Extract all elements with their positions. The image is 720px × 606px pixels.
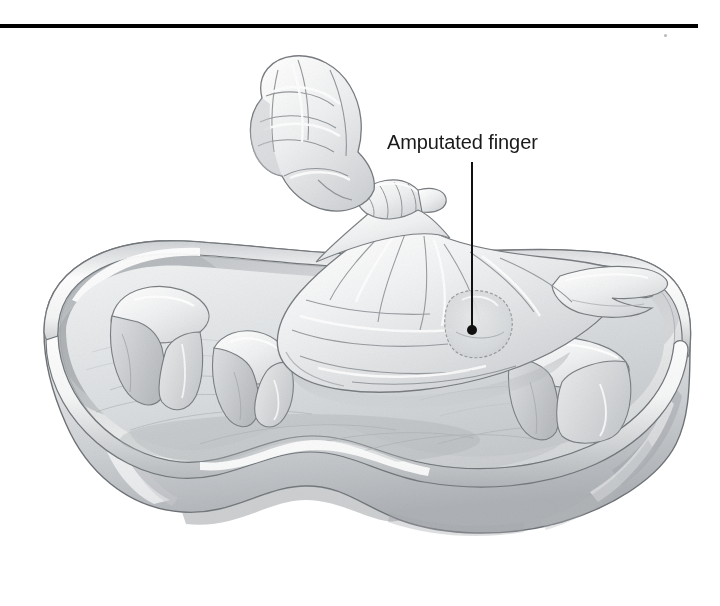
amputated-finger: [445, 291, 513, 358]
medical-illustration: [0, 0, 720, 606]
figure-root: Amputated finger: [0, 0, 720, 606]
leader-dot: [467, 325, 477, 335]
callout-label-amputated-finger: Amputated finger: [387, 130, 538, 154]
